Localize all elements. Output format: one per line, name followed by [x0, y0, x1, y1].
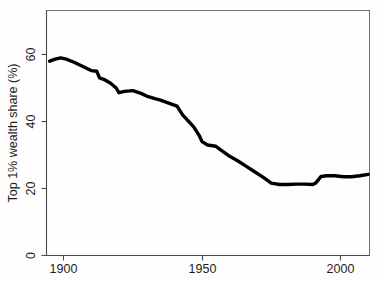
chart-container: 60 40 20 0 Top 1% wealth share (%) 1900 … — [0, 0, 379, 281]
x-tick-label-1900: 1900 — [50, 262, 78, 276]
y-tick-label-60: 60 — [24, 48, 38, 62]
y-tick-label-0: 0 — [24, 252, 38, 259]
y-axis-ticks — [42, 55, 47, 256]
series-line-top-1pct-wealth-share — [50, 58, 369, 185]
wealth-share-line-chart: 60 40 20 0 Top 1% wealth share (%) 1900 … — [0, 0, 379, 281]
plot-frame — [47, 11, 370, 256]
y-tick-label-20: 20 — [24, 182, 38, 196]
x-axis-ticks — [64, 256, 341, 261]
x-tick-label-2000: 2000 — [327, 262, 355, 276]
y-axis-title: Top 1% wealth share (%) — [6, 64, 20, 203]
y-tick-label-40: 40 — [24, 115, 38, 129]
x-tick-label-1950: 1950 — [189, 262, 217, 276]
